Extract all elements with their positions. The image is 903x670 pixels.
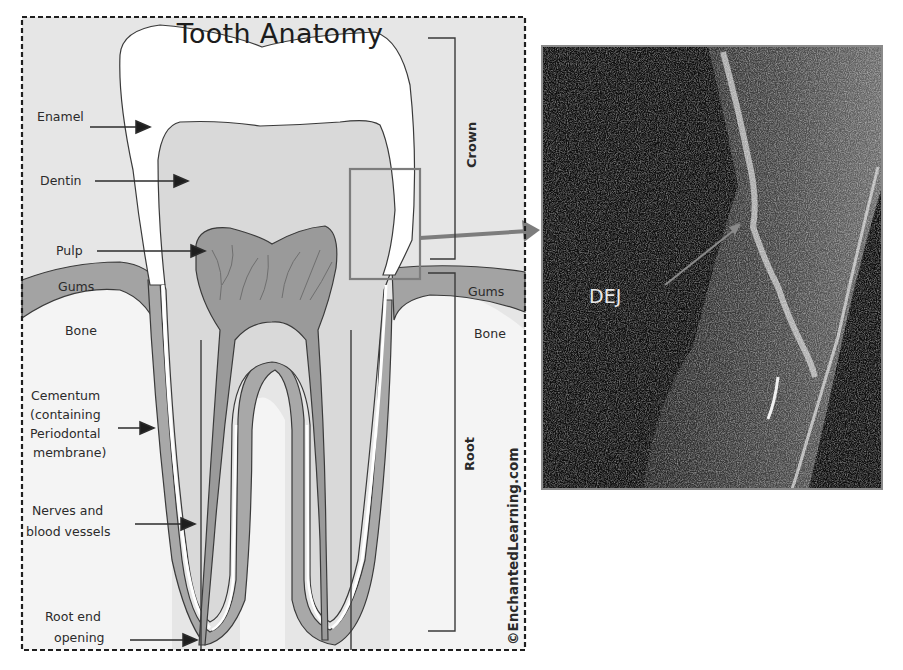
figure-stage: Tooth Anatomy Enamel Dentin Pulp Gums Bo… — [0, 0, 903, 670]
label-nerves-line-1: Nerves and — [32, 502, 103, 519]
label-bone-right: Bone — [474, 325, 506, 342]
diagram-title: Tooth Anatomy — [150, 18, 410, 49]
label-gums-right: Gums — [468, 283, 504, 300]
oct-scan-graphic — [543, 47, 883, 490]
label-gums-left: Gums — [58, 278, 94, 295]
label-cementum-line-4: membrane) — [33, 444, 106, 461]
oct-image: DEJ — [541, 45, 883, 490]
label-root: Root — [462, 437, 477, 471]
copyright-text: ©EnchantedLearning.com — [505, 448, 521, 645]
label-enamel: Enamel — [37, 108, 84, 125]
label-nerves-line-2: blood vessels — [26, 523, 110, 540]
label-root-end-line-1: Root end — [45, 608, 101, 625]
dej-label: DEJ — [589, 285, 621, 307]
label-bone-left: Bone — [65, 322, 97, 339]
label-pulp: Pulp — [56, 242, 83, 259]
label-dentin: Dentin — [40, 172, 82, 189]
label-crown: Crown — [464, 122, 479, 168]
label-root-end-line-2: opening — [54, 629, 105, 646]
label-cementum-line-2: (containing — [30, 406, 101, 423]
label-cementum-line-3: Periodontal — [30, 425, 101, 442]
label-cementum-line-1: Cementum — [31, 387, 100, 404]
